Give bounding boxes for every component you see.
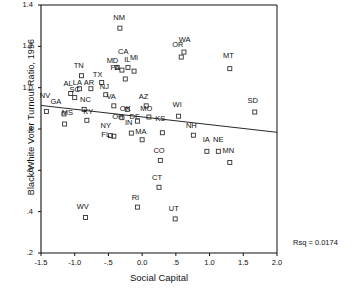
axes — [41, 5, 277, 253]
data-point-marker — [157, 185, 161, 189]
data-point-label: MA — [131, 128, 151, 136]
data-point-marker — [182, 50, 186, 54]
data-point-marker — [63, 122, 67, 126]
data-point-label: MN — [218, 147, 238, 155]
data-point-label: KS — [150, 115, 170, 123]
data-point-marker — [85, 118, 89, 122]
data-point-marker — [123, 77, 127, 81]
data-point-label: KY — [78, 108, 98, 116]
data-point-marker — [160, 131, 164, 135]
data-point-label: NY — [96, 122, 116, 130]
data-point-marker — [84, 215, 88, 219]
data-point-label: DE — [125, 113, 145, 121]
data-point-label: TN — [69, 62, 89, 70]
data-point-label: GA — [46, 98, 66, 106]
data-point-label: NH — [181, 122, 201, 130]
data-point-marker — [135, 205, 139, 209]
scatter-plot-figure: Black/White Voter Turnout Ratio, 1996 So… — [0, 0, 353, 293]
data-point-marker — [253, 110, 257, 114]
data-point-marker — [126, 65, 130, 69]
data-point-label: AZ — [133, 93, 153, 101]
data-point-marker — [228, 160, 232, 164]
data-point-label: WV — [73, 203, 93, 211]
data-point-label: UT — [164, 205, 184, 213]
data-point-label: PA — [105, 64, 125, 72]
data-point-label: MO — [136, 105, 156, 113]
data-point-label: MI — [124, 54, 144, 62]
data-point-marker — [205, 149, 209, 153]
data-point-marker — [228, 67, 232, 71]
data-point-label: NM — [109, 14, 129, 22]
data-point-label: WA — [175, 36, 195, 44]
data-point-label: SD — [243, 97, 263, 105]
data-point-marker — [173, 217, 177, 221]
data-point-marker — [140, 138, 144, 142]
data-point-label: FL — [96, 131, 116, 139]
data-point-label: NC — [76, 96, 96, 104]
data-point-marker — [44, 109, 48, 113]
data-point-label: CT — [147, 174, 167, 182]
data-point-label: RI — [125, 194, 145, 202]
data-point-label: CO — [149, 147, 169, 155]
data-point-marker — [177, 114, 181, 118]
data-point-label: SC — [65, 86, 85, 94]
data-point-marker — [118, 26, 122, 30]
data-point-label: NJ — [94, 83, 114, 91]
data-point-marker — [158, 158, 162, 162]
data-point-label: VA — [101, 93, 121, 101]
data-point-marker — [179, 55, 183, 59]
data-point-label: NE — [208, 136, 228, 144]
data-point-marker — [132, 69, 136, 73]
data-point-label: MT — [218, 52, 238, 60]
data-point-label: MS — [57, 109, 77, 117]
data-point-label: WI — [167, 101, 187, 109]
data-point-marker — [89, 87, 93, 91]
data-point-marker — [191, 133, 195, 137]
